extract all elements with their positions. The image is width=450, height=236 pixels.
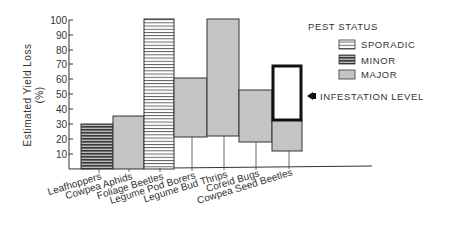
legend-label-minor: MINOR bbox=[361, 55, 396, 66]
svg-text:20: 20 bbox=[56, 134, 68, 145]
svg-text:90: 90 bbox=[56, 30, 68, 41]
bar-leafhoppers bbox=[81, 124, 113, 169]
legend-label-major: MAJOR bbox=[361, 69, 397, 80]
legend-title: PEST STATUS bbox=[308, 21, 378, 32]
bar-legume-bud-thrips bbox=[207, 19, 239, 136]
bar-cowpea-seed-beetles bbox=[272, 120, 302, 151]
bars bbox=[81, 19, 302, 169]
bar-coreid-bugs bbox=[239, 90, 272, 142]
bar-cowpea-aphids bbox=[113, 116, 144, 169]
y-tick-labels: 10 20 30 40 50 60 70 80 90 100 bbox=[50, 15, 67, 160]
legend-swatch-minor bbox=[339, 55, 355, 64]
svg-text:30: 30 bbox=[56, 119, 68, 130]
y-axis-unit: (%) bbox=[34, 86, 45, 103]
svg-text:70: 70 bbox=[56, 59, 68, 70]
legend-label-sporadic: SPORADIC bbox=[361, 39, 415, 50]
svg-text:50: 50 bbox=[56, 89, 68, 100]
bar-legume-pod-borers bbox=[174, 78, 207, 137]
infestation-level-outline bbox=[273, 66, 301, 120]
legend-swatch-sporadic bbox=[339, 40, 355, 49]
yield-loss-chart: Estimated Yield Loss (%) 10 20 30 40 50 … bbox=[0, 0, 450, 236]
svg-text:40: 40 bbox=[56, 104, 68, 115]
infestation-annotation: INFESTATION LEVEL bbox=[307, 91, 424, 102]
arrow-left-icon bbox=[307, 92, 313, 100]
bar-foliage-beetles bbox=[144, 19, 174, 169]
legend: PEST STATUS SPORADIC MINOR MAJOR bbox=[308, 21, 415, 80]
svg-text:100: 100 bbox=[50, 15, 67, 26]
y-axis-label: Estimated Yield Loss bbox=[22, 44, 33, 147]
annotation-label: INFESTATION LEVEL bbox=[320, 91, 424, 102]
svg-text:80: 80 bbox=[56, 45, 68, 56]
svg-text:10: 10 bbox=[56, 149, 68, 160]
x-category-labels: Leafhoppers Cowpea Aphids Foliage Beetle… bbox=[46, 166, 293, 206]
legend-swatch-major bbox=[339, 70, 355, 79]
svg-text:60: 60 bbox=[56, 74, 68, 85]
y-ticks bbox=[69, 20, 73, 154]
